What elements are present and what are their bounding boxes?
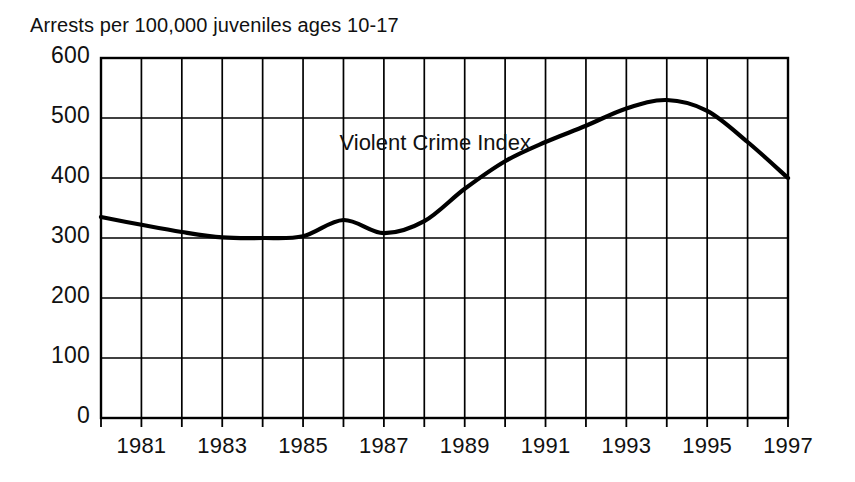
x-axis-label-1997: 1997 xyxy=(743,433,833,459)
y-axis-label-600: 600 xyxy=(16,42,90,69)
x-axis-tick-marks xyxy=(101,418,788,427)
series-annotation-label: Violent Crime Index xyxy=(339,130,531,156)
y-axis-label-300: 300 xyxy=(16,222,90,249)
y-axis-label-400: 400 xyxy=(16,162,90,189)
x-axis-label-1983: 1983 xyxy=(177,433,267,459)
y-axis-label-100: 100 xyxy=(16,342,90,369)
chart-figure: Arrests per 100,000 juveniles ages 10-17… xyxy=(0,0,855,482)
x-axis-label-1991: 1991 xyxy=(501,433,591,459)
x-axis-label-1985: 1985 xyxy=(258,433,348,459)
y-axis-label-500: 500 xyxy=(16,102,90,129)
x-axis-label-1993: 1993 xyxy=(581,433,671,459)
x-axis-label-1989: 1989 xyxy=(420,433,510,459)
plot-area xyxy=(0,0,855,482)
y-axis-label-0: 0 xyxy=(16,402,90,429)
x-axis-label-1995: 1995 xyxy=(662,433,752,459)
x-axis-label-1987: 1987 xyxy=(339,433,429,459)
violent-crime-index-line xyxy=(101,100,788,238)
chart-title: Arrests per 100,000 juveniles ages 10-17 xyxy=(30,14,399,37)
x-axis-label-1981: 1981 xyxy=(96,433,186,459)
y-axis-label-200: 200 xyxy=(16,282,90,309)
